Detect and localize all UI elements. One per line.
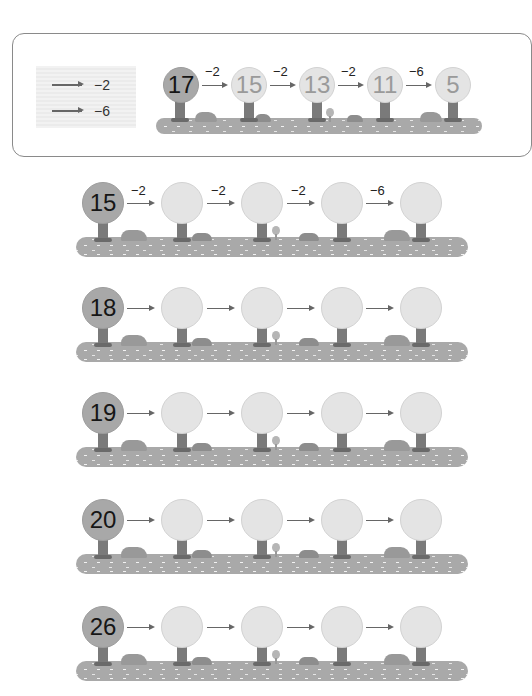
tree-trunk [312,100,322,120]
arrow-right-icon [287,627,313,628]
answer-circle[interactable] [161,182,203,224]
bush-icon [121,335,147,346]
answer-circle[interactable] [161,606,203,648]
tree-trunk [448,100,458,120]
bush-icon [299,657,319,665]
legend-label: −6 [94,103,110,119]
arrow-right-icon [127,203,153,204]
example-result: 11 [367,67,403,103]
bush-icon [384,547,410,558]
arrow-right-icon [287,413,313,414]
start-number: 18 [82,287,124,329]
example-result: 13 [299,67,335,103]
step-op: −2 [205,64,220,79]
arrow-right-icon [207,413,233,414]
arrow-right-icon [287,520,313,521]
answer-circle[interactable] [321,287,363,329]
sapling-icon [272,331,280,340]
arrow-right-icon [366,627,392,628]
answer-circle[interactable] [241,392,283,434]
answer-circle[interactable] [400,499,442,541]
arrow-right-icon [52,84,82,85]
step-op: −6 [370,183,385,198]
step-op: −6 [409,64,424,79]
answer-circle[interactable] [161,392,203,434]
start-number: 26 [82,606,124,648]
sapling-icon [272,543,280,552]
bush-icon [192,338,212,346]
bush-icon [384,335,410,346]
sapling-icon [272,226,280,235]
arrow-right-icon [287,203,313,204]
tree-trunk [244,100,254,120]
answer-circle[interactable] [241,287,283,329]
arrow-right-icon [207,627,233,628]
arrow-right-icon [366,520,392,521]
legend-row-minus-2: −2 [52,78,110,92]
answer-circle[interactable] [241,182,283,224]
bush-icon [299,443,319,451]
arrow-right-icon [202,85,226,86]
exercise-row-20: 20 [0,499,514,579]
answer-circle[interactable] [321,606,363,648]
bush-icon [192,550,212,558]
legend-label: −2 [94,77,110,93]
arrow-right-icon [366,413,392,414]
sapling-icon [272,650,280,659]
bush-icon [384,230,410,241]
answer-circle[interactable] [241,499,283,541]
answer-circle[interactable] [161,499,203,541]
bush-icon [121,547,147,558]
bush-icon [299,233,319,241]
bush-icon [299,338,319,346]
arrow-right-icon [207,203,233,204]
bush-icon [384,440,410,451]
step-op: −2 [211,183,226,198]
arrow-right-icon [127,520,153,521]
bush-icon [121,230,147,241]
step-op: −2 [341,64,356,79]
bush-icon [192,443,212,451]
arrow-right-icon [366,308,392,309]
tree-trunk [175,100,185,120]
exercise-row-15: 15 −2 −2 −2 −6 [0,182,514,262]
legend-row-minus-6: −6 [52,104,110,118]
start-number: 20 [82,499,124,541]
start-number: 15 [82,182,124,224]
arrow-right-icon [338,85,362,86]
exercise-row-18: 18 [0,287,514,367]
rule-legend: −2 −6 [36,66,136,128]
answer-circle[interactable] [321,182,363,224]
arrow-right-icon [406,85,430,86]
answer-circle[interactable] [400,606,442,648]
sapling-icon [272,436,280,445]
answer-circle[interactable] [321,499,363,541]
arrow-right-icon [127,308,153,309]
exercise-row-26: 26 [0,606,514,686]
arrow-right-icon [52,110,82,111]
example-result: 5 [435,67,471,103]
sapling-icon [326,108,334,117]
arrow-right-icon [127,413,153,414]
answer-circle[interactable] [400,287,442,329]
answer-circle[interactable] [400,392,442,434]
answer-circle[interactable] [400,182,442,224]
bush-icon [192,657,212,665]
answer-circle[interactable] [241,606,283,648]
exercise-row-19: 19 [0,392,514,472]
step-op: −2 [131,183,146,198]
start-number: 17 [163,67,199,103]
step-op: −2 [291,183,306,198]
tree-trunk [380,100,390,120]
answer-circle[interactable] [321,392,363,434]
bush-icon [384,654,410,665]
arrow-right-icon [270,85,294,86]
step-op: −2 [273,64,288,79]
example-result: 15 [231,67,267,103]
bush-icon [121,440,147,451]
arrow-right-icon [127,627,153,628]
arrow-right-icon [207,520,233,521]
start-number: 19 [82,392,124,434]
arrow-right-icon [366,203,392,204]
answer-circle[interactable] [161,287,203,329]
